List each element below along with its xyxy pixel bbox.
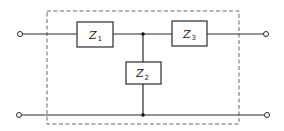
terminal-output-bottom <box>265 113 270 118</box>
junction-top-node <box>141 32 145 36</box>
z2-symbol: Z <box>135 67 144 80</box>
z2-subscript: 2 <box>145 74 149 82</box>
terminal-input-bottom <box>17 113 22 118</box>
z3-symbol: Z <box>182 28 191 41</box>
impedance-z3: Z 3 <box>172 21 207 46</box>
junction-bottom-node <box>141 113 145 117</box>
z1-subscript: 1 <box>98 35 102 43</box>
impedance-z1: Z 1 <box>77 22 113 47</box>
terminal-input-top <box>18 32 23 37</box>
impedance-z2: Z 2 <box>126 62 161 84</box>
t-network-diagram: Z 1 Z 3 Z 2 <box>0 0 284 131</box>
z3-subscript: 3 <box>192 34 196 42</box>
terminal-output-top <box>264 32 269 37</box>
z1-symbol: Z <box>88 29 97 42</box>
